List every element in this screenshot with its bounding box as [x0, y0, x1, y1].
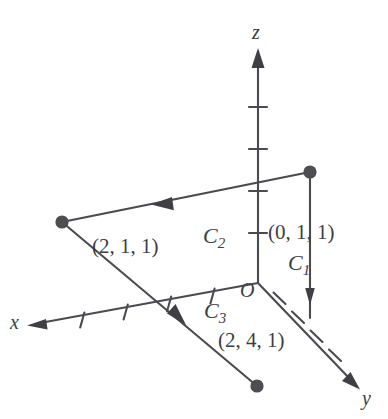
curve-label-c1-letter: C: [288, 250, 303, 275]
curve-c2-arrowhead: [151, 197, 174, 210]
curve-label-c3-subscript: 3: [219, 310, 226, 326]
x-axis-arrowhead: [27, 319, 48, 330]
curve-label-c3: C3: [204, 300, 226, 326]
figure-3d-coordinate-diagram: z x y O (0, 1, 1) (2, 1, 1) (2, 4, 1) C1…: [0, 0, 388, 419]
z-axis-arrowhead: [252, 48, 265, 68]
curve-c2-path: [62, 172, 310, 222]
x-axis-label: x: [10, 312, 19, 332]
dot-point-2-4-1: [250, 379, 263, 392]
dot-point-0-1-1: [303, 165, 316, 178]
origin-label: O: [240, 280, 254, 300]
z-axis-label: z: [252, 22, 260, 42]
point-label-0-1-1: (0, 1, 1): [268, 222, 335, 243]
curve-c1-arrowhead: [305, 288, 315, 305]
dot-point-2-1-1: [55, 215, 68, 228]
curve-label-c2-letter: C: [203, 223, 218, 248]
point-label-2-4-1: (2, 4, 1): [218, 330, 285, 351]
y-axis-label: y: [362, 388, 371, 408]
curve-label-c1: C1: [288, 252, 310, 278]
diagram-canvas: [0, 0, 388, 419]
curve-label-c3-letter: C: [204, 298, 219, 323]
curve-c3-arrowhead: [167, 304, 186, 325]
curve-label-c2-subscript: 2: [218, 235, 225, 251]
curve-paths-group: [62, 172, 315, 386]
vertex-dots-group: [55, 165, 316, 392]
point-label-2-1-1: (2, 1, 1): [92, 236, 159, 257]
curve-label-c2: C2: [203, 225, 225, 251]
curve-label-c1-subscript: 1: [303, 262, 310, 278]
